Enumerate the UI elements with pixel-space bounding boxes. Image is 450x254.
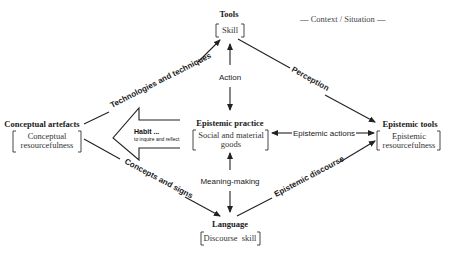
edge-epistemic-actions-label: Epistemic actions: [293, 129, 355, 138]
edge-action: Action: [219, 44, 241, 110]
left-bracket: [193, 130, 196, 150]
node-conceptual-artefacts-title: Conceptual artefacts: [4, 119, 80, 129]
context-label: — Context / Situation —: [299, 14, 386, 24]
edge-line: [237, 198, 272, 216]
edge-action-label: Action: [219, 73, 241, 82]
edge-epistemic-discourse-label: Epistemic discourse: [273, 154, 346, 199]
node-tools-body: Skill: [222, 25, 239, 35]
node-conceptual-artefacts-body-2: resourcefulness: [21, 140, 74, 150]
edge-line: [238, 39, 290, 68]
habit-arrow-title: Habit ...: [134, 128, 159, 135]
node-tools: Tools Skill: [216, 9, 244, 37]
edge-technologies-and-techniques: Technologies and techniques: [84, 40, 220, 124]
node-epistemic-tools-body-2: resourcefulness: [383, 140, 436, 150]
edge-epistemic-actions: Epistemic actions: [272, 129, 374, 138]
node-language-title: Language: [212, 219, 248, 229]
edge-meaning-making: Meaning-making: [200, 153, 259, 212]
habit-arrow-subtitle: to inquire and reflect: [134, 136, 180, 142]
node-epistemic-tools-title: Epistemic tools: [382, 119, 438, 129]
epistemic-practice-diagram: — Context / Situation — Tools Skill Conc…: [0, 0, 450, 254]
left-bracket: [13, 131, 16, 152]
edge-meaning-making-label: Meaning-making: [200, 177, 259, 186]
edge-perception: Perception: [238, 39, 375, 122]
node-conceptual-artefacts: Conceptual artefacts Conceptual resource…: [4, 119, 81, 152]
edge-arrow: [340, 141, 375, 162]
left-bracket: [377, 131, 380, 150]
edge-concepts-label: Concepts and signs: [123, 157, 195, 201]
node-epistemic-tools: Epistemic tools Epistemic resourcefulnes…: [377, 119, 440, 150]
right-bracket: [78, 131, 81, 152]
node-epistemic-practice-body-2: goods: [221, 139, 241, 149]
edge-line: [84, 112, 109, 124]
node-tools-title: Tools: [219, 9, 239, 19]
node-epistemic-practice: Epistemic practice Social and material g…: [193, 118, 268, 150]
right-bracket: [241, 24, 244, 37]
right-bracket: [265, 130, 268, 150]
node-language-body: Discourse skill: [204, 233, 258, 243]
edge-technologies-label: Technologies and techniques: [109, 51, 213, 110]
edge-arrow: [325, 95, 375, 122]
habit-arrow: Habit ... to inquire and reflect: [113, 108, 180, 160]
edge-line: [84, 139, 120, 159]
right-bracket: [437, 131, 440, 150]
left-bracket: [216, 24, 219, 37]
right-bracket: [257, 232, 260, 245]
node-epistemic-practice-title: Epistemic practice: [196, 118, 263, 128]
edge-perception-label: Perception: [290, 65, 331, 93]
node-language: Language Discourse skill: [201, 219, 260, 245]
